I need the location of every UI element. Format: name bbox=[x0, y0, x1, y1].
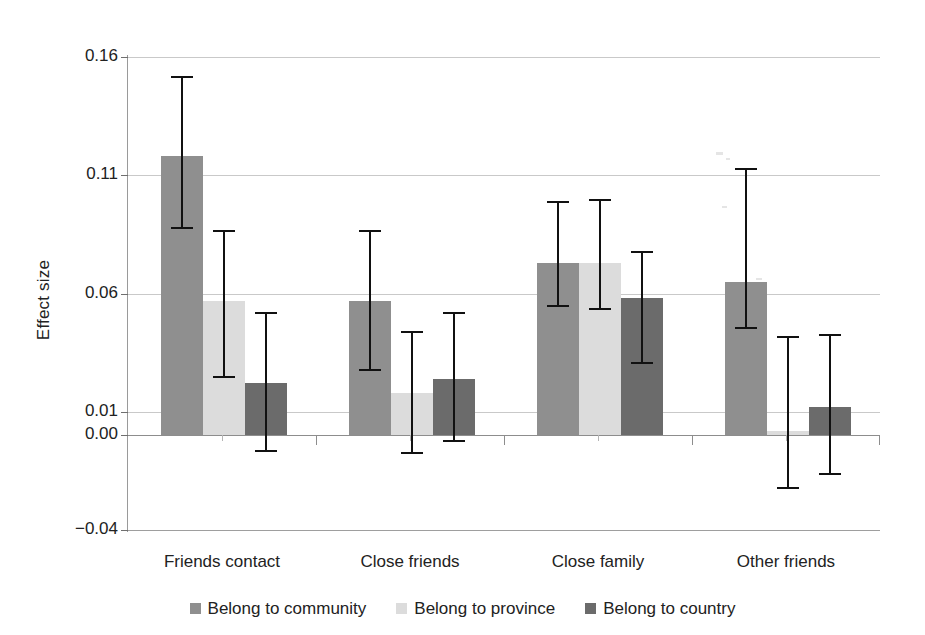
error-bar-cap-lower bbox=[589, 308, 611, 310]
error-bar-cap-lower bbox=[735, 327, 757, 329]
error-bar-stem bbox=[223, 230, 225, 377]
gridline bbox=[128, 530, 880, 531]
legend-item-province[interactable]: Belong to province bbox=[396, 600, 555, 617]
error-bar-cap-lower bbox=[547, 305, 569, 307]
error-bar-cap-lower bbox=[819, 473, 841, 475]
category-separator bbox=[504, 435, 505, 445]
error-bar-cap-lower bbox=[631, 362, 653, 364]
y-tick-mark bbox=[121, 175, 128, 176]
legend-label-community: Belong to community bbox=[208, 600, 367, 617]
category-separator-end bbox=[879, 435, 880, 445]
scan-speckle bbox=[756, 278, 762, 280]
error-bar-cap-upper bbox=[443, 312, 465, 314]
y-tick-mark bbox=[121, 412, 128, 413]
legend-item-country[interactable]: Belong to country bbox=[585, 600, 735, 617]
error-bar-cap-lower bbox=[359, 369, 381, 371]
category-label-0: Friends contact bbox=[128, 552, 316, 572]
legend-label-province: Belong to province bbox=[414, 600, 555, 617]
error-bar-stem bbox=[787, 336, 789, 487]
legend: Belong to community Belong to province B… bbox=[0, 600, 925, 617]
category-label-3: Other friends bbox=[692, 552, 880, 572]
legend-item-community[interactable]: Belong to community bbox=[190, 600, 367, 617]
category-minor-tick bbox=[598, 435, 599, 441]
category-separator bbox=[316, 435, 317, 445]
y-tick-label: 0.11 bbox=[44, 164, 118, 184]
error-bar-stem bbox=[557, 201, 559, 305]
error-bar-stem bbox=[265, 312, 267, 449]
error-bar-cap-lower bbox=[443, 440, 465, 442]
error-bar-cap-upper bbox=[171, 76, 193, 78]
gridline bbox=[128, 294, 880, 295]
y-tick-label: 0.16 bbox=[44, 46, 118, 66]
legend-label-country: Belong to country bbox=[603, 600, 735, 617]
error-bar-stem bbox=[181, 76, 183, 227]
error-bar-cap-upper bbox=[735, 168, 757, 170]
error-bar-cap-lower bbox=[213, 376, 235, 378]
legend-swatch-community bbox=[190, 603, 201, 614]
category-label-2: Close family bbox=[504, 552, 692, 572]
error-bar-stem bbox=[453, 312, 455, 440]
error-bar-stem bbox=[641, 251, 643, 362]
y-tick-mark bbox=[121, 294, 128, 295]
scan-speckle bbox=[716, 152, 723, 155]
error-bar-stem bbox=[829, 334, 831, 474]
y-tick-label: −0.04 bbox=[44, 519, 118, 539]
error-bar-cap-upper bbox=[213, 230, 235, 232]
category-minor-tick bbox=[410, 435, 411, 441]
error-bar-cap-upper bbox=[401, 331, 423, 333]
gridline bbox=[128, 57, 880, 58]
error-bar-cap-upper bbox=[255, 312, 277, 314]
y-tick-mark bbox=[121, 530, 128, 531]
gridline bbox=[128, 175, 880, 176]
y-tick-mark bbox=[121, 57, 128, 58]
y-tick-label: 0.00 bbox=[44, 424, 118, 444]
error-bar-stem bbox=[599, 199, 601, 308]
legend-swatch-country bbox=[585, 603, 596, 614]
category-minor-tick bbox=[786, 435, 787, 441]
error-bar-stem bbox=[745, 168, 747, 326]
error-bar-cap-upper bbox=[777, 336, 799, 338]
legend-swatch-province bbox=[396, 603, 407, 614]
error-bar-stem bbox=[369, 230, 371, 370]
error-bar-stem bbox=[411, 331, 413, 452]
plot-area bbox=[128, 57, 880, 530]
error-bar-cap-upper bbox=[819, 334, 841, 336]
y-tick-mark bbox=[121, 435, 128, 436]
error-bar-cap-upper bbox=[589, 199, 611, 201]
y-tick-label: 0.01 bbox=[44, 401, 118, 421]
scan-speckle bbox=[726, 158, 730, 160]
error-bar-cap-lower bbox=[401, 452, 423, 454]
error-bar-cap-upper bbox=[547, 201, 569, 203]
category-minor-tick bbox=[222, 435, 223, 441]
category-separator bbox=[692, 435, 693, 445]
scan-speckle bbox=[722, 206, 727, 208]
error-bar-cap-upper bbox=[631, 251, 653, 253]
category-label-1: Close friends bbox=[316, 552, 504, 572]
error-bar-cap-lower bbox=[255, 450, 277, 452]
error-bar-cap-lower bbox=[171, 227, 193, 229]
effect-size-bar-chart: Effect size 0.160.110.060.010.00−0.04 Fr… bbox=[0, 0, 925, 635]
error-bar-cap-upper bbox=[359, 230, 381, 232]
error-bar-cap-lower bbox=[777, 487, 799, 489]
y-tick-label: 0.06 bbox=[44, 283, 118, 303]
